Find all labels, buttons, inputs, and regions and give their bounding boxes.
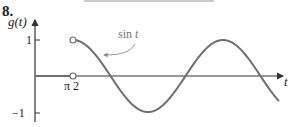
curve-func-name: sin bbox=[118, 27, 132, 41]
y-axis-label: g(t) bbox=[8, 15, 27, 28]
x-tick-label-pi-over-2: π 2 bbox=[64, 80, 79, 92]
y-tick-label-neg1: −1 bbox=[12, 107, 25, 119]
chart-canvas bbox=[0, 0, 293, 127]
x-axis-label: t bbox=[284, 75, 288, 88]
curve-annotation-label: sin t bbox=[118, 28, 138, 40]
y-tick-label-1: 1 bbox=[26, 34, 32, 46]
curve-func-var: t bbox=[135, 27, 138, 41]
annotation-arrow bbox=[104, 44, 135, 55]
open-circle-top bbox=[70, 37, 76, 43]
